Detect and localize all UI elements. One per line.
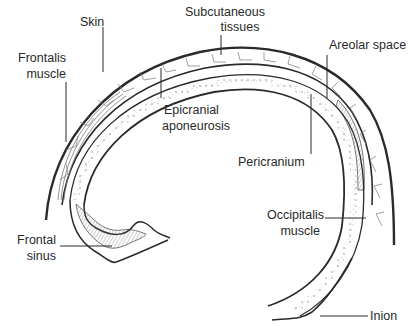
label-subcutaneous-line2: tissues [195,19,285,35]
label-pericranium: Pericranium [238,154,305,170]
label-epicranial-line2: aponeurosis [162,118,230,134]
label-frontal-sinus-line2: sinus [0,248,56,264]
label-areolar-space: Areolar space [329,37,406,53]
label-epicranial-line1: Epicranial [164,102,219,118]
frontal-sinus [76,204,146,248]
label-subcutaneous-line1: Subcutaneous [165,4,285,20]
label-frontalis-line2: muscle [0,66,66,82]
label-frontalis-line1: Frontalis [0,50,66,66]
label-occipitalis-line2: muscle [240,223,320,239]
label-skin: Skin [80,14,104,30]
label-inion: Inion [370,308,397,324]
label-occipitalis-line1: Occipitalis [240,207,324,223]
label-frontal-sinus-line1: Frontal [0,232,56,248]
leader-lines [60,27,368,316]
